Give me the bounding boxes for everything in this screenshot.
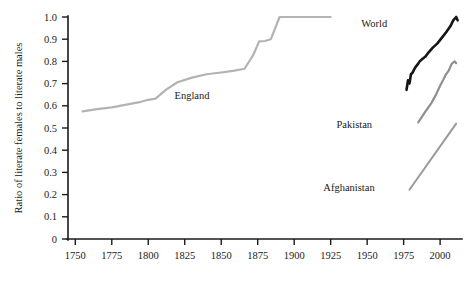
series-line-pakistan: [418, 61, 456, 122]
series-line-world: [407, 17, 458, 90]
series-label-world: World: [361, 18, 388, 29]
series-label-afghanistan: Afghanistan: [323, 182, 375, 193]
y-axis-title-group: Ratio of literate females to literate ma…: [13, 43, 24, 214]
x-axis-tick-label: 1950: [357, 250, 378, 261]
y-axis-ticks: 00.10.20.30.40.50.60.70.80.91.0: [44, 12, 68, 245]
y-axis-tick-label: 1.0: [44, 12, 57, 23]
x-axis-tick-label: 1850: [211, 250, 232, 261]
chart-axes: [67, 16, 462, 240]
y-axis-tick-label: 0.9: [44, 34, 57, 45]
x-axis-tick-label: 1750: [65, 250, 86, 261]
x-axis-tick-label: 1925: [320, 250, 341, 261]
x-axis-tick-label: 1800: [138, 250, 159, 261]
y-axis-tick-label: 0.1: [44, 211, 57, 222]
y-axis-tick-label: 0.4: [44, 145, 58, 156]
y-axis-tick-label: 0.7: [44, 78, 57, 89]
y-axis-title: Ratio of literate females to literate ma…: [13, 43, 24, 214]
x-axis-ticks: 1750177518001825185018751900192519501975…: [65, 239, 451, 261]
y-axis-tick-label: 0.8: [44, 56, 57, 67]
data-series-group: [83, 17, 458, 190]
x-axis-tick-label: 1825: [174, 250, 195, 261]
chart-figure: 00.10.20.30.40.50.60.70.80.91.0 17501775…: [0, 0, 470, 296]
literacy-ratio-line-chart: 00.10.20.30.40.50.60.70.80.91.0 17501775…: [0, 0, 470, 296]
x-axis-tick-label: 1975: [393, 250, 414, 261]
y-axis-tick-label: 0.5: [44, 123, 57, 134]
series-line-afghanistan: [409, 124, 456, 190]
x-axis-tick-label: 2000: [430, 250, 451, 261]
series-label-pakistan: Pakistan: [337, 119, 373, 130]
series-annotation-labels: EnglandWorldPakistanAfghanistan: [175, 18, 389, 193]
x-axis-tick-label: 1875: [247, 250, 268, 261]
y-axis-tick-label: 0.2: [44, 189, 57, 200]
x-axis-tick-label: 1775: [101, 250, 122, 261]
x-axis-tick-label: 1900: [284, 250, 305, 261]
series-label-england: England: [175, 90, 211, 101]
y-axis-tick-label: 0.6: [44, 100, 57, 111]
y-axis-tick-label: 0: [52, 234, 57, 245]
y-axis-tick-label: 0.3: [44, 167, 57, 178]
